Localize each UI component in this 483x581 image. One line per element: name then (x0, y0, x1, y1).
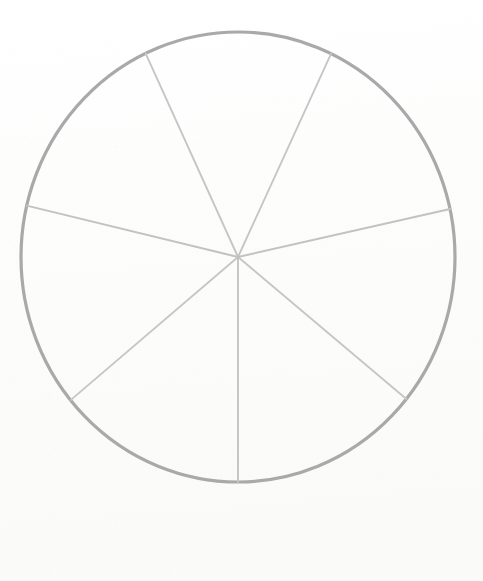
figure-canvas (0, 0, 483, 581)
spoke-north-west (146, 53, 238, 257)
spoke-west (27, 206, 238, 257)
pie-chart-wheel (0, 0, 483, 581)
spoke-south-east (238, 257, 406, 399)
spoke-east (238, 209, 450, 257)
pie-center-hub (236, 255, 239, 258)
spoke-south-west (71, 257, 238, 400)
spoke-north-east (238, 54, 331, 257)
